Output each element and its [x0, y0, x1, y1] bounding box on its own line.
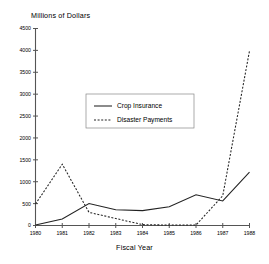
x-tick-label: 1987 [217, 230, 229, 236]
x-tick-label: 1986 [190, 230, 202, 236]
y-tick-label: 3000 [19, 91, 31, 97]
x-tick-label: 1985 [163, 230, 175, 236]
y-tick-label: 0 [28, 222, 31, 228]
line-chart-canvas: 050010001500200025003000350040004500 198… [0, 0, 269, 264]
series-line-crop-insurance [36, 172, 250, 225]
series-line-disaster-payments [36, 51, 250, 225]
x-tick-label: 1988 [244, 230, 256, 236]
chart-figure: Millions of Dollars 05001000150020002500… [0, 0, 269, 264]
x-tick-label: 1981 [56, 230, 68, 236]
x-axis: 198019811982198319841985198619871988 [30, 223, 256, 236]
data-series-group [36, 51, 250, 225]
y-tick-label: 2500 [19, 113, 31, 119]
y-tick-label: 1000 [19, 179, 31, 185]
y-tick-label: 4500 [19, 25, 31, 31]
y-tick-label: 2000 [19, 135, 31, 141]
x-tick-label: 1983 [110, 230, 122, 236]
x-tick-label: 1982 [83, 230, 95, 236]
x-axis-title: Fiscal Year [0, 243, 269, 252]
y-axis: 050010001500200025003000350040004500 [19, 25, 38, 228]
x-tick-label: 1980 [30, 230, 42, 236]
y-tick-label: 1500 [19, 157, 31, 163]
y-tick-label: 4000 [19, 47, 31, 53]
chart-legend: Crop InsuranceDisaster Payments [86, 94, 194, 128]
legend-label: Crop Insurance [117, 102, 162, 110]
x-tick-label: 1984 [137, 230, 149, 236]
y-tick-label: 500 [22, 201, 31, 207]
legend-label: Disaster Payments [117, 116, 173, 124]
y-tick-label: 3500 [19, 69, 31, 75]
